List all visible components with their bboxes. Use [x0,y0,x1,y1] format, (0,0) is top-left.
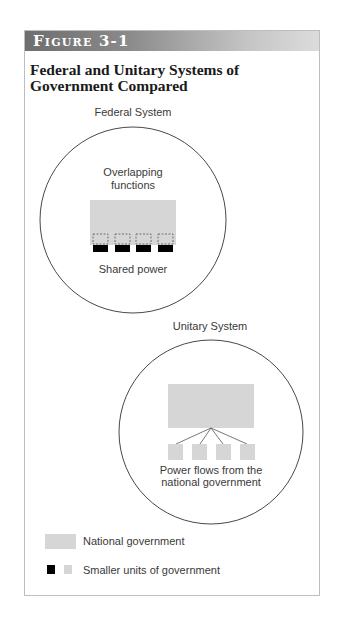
federal-system-diagram: Federal System Overlapping functions Sha… [40,106,226,313]
unitary-system-heading: Unitary System [173,320,248,332]
unitary-national-government-block [168,384,254,428]
shared-power-label: Shared power [99,263,168,275]
legend-smaller-label: Smaller units of government [83,564,220,576]
overlapping-label-line1: Overlapping [103,166,162,178]
unitary-system-circle [119,340,303,524]
power-flows-label-line2: national government [161,476,261,488]
power-flow-lines [176,428,247,444]
legend-national-swatch [45,534,76,549]
legend-smaller-grey-swatch [64,565,72,574]
federal-national-government-block [90,200,176,245]
diagram-canvas: Federal System Overlapping functions Sha… [0,0,338,619]
federal-system-heading: Federal System [94,106,171,118]
unitary-smaller-units [168,444,255,460]
legend-smaller-black-swatch [47,565,55,574]
federal-smaller-units [93,245,173,252]
overlapping-label-line2: functions [111,179,156,191]
unitary-system-diagram: Unitary System Power flows from the nati… [119,320,303,524]
legend [45,534,76,574]
legend-national-label: National government [83,535,185,547]
power-flows-label-line1: Power flows from the [160,464,263,476]
